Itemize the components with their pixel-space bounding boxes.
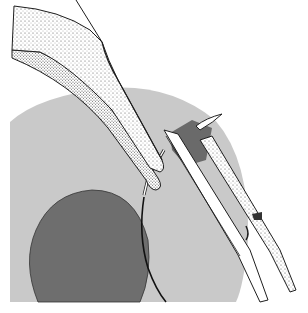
illustration-svg <box>0 0 308 313</box>
surgical-illustration <box>0 0 308 313</box>
